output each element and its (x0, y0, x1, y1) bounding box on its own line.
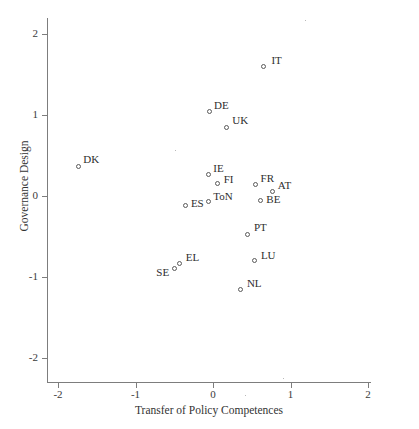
data-point-ton[interactable] (206, 199, 211, 204)
data-point-uk[interactable] (224, 125, 229, 130)
scatter-plot: 210-1-2-2-1012 ITDEUKDKIEFIFRATToNBEESPT… (0, 0, 419, 429)
data-point-label-at: AT (278, 179, 291, 191)
y-tick (42, 358, 47, 359)
y-axis-title: Governance Design (18, 106, 30, 266)
data-point-es[interactable] (183, 203, 188, 208)
data-point-label-be: BE (266, 193, 280, 205)
y-tick (42, 196, 47, 197)
x-tick-label: -1 (121, 388, 151, 400)
data-point-label-fi: FI (224, 173, 234, 185)
data-point-label-uk: UK (232, 114, 248, 126)
x-tick-label: 2 (353, 388, 383, 400)
data-point-label-pt: PT (254, 221, 267, 233)
y-axis-line (47, 18, 48, 383)
x-tick-label: -2 (43, 388, 73, 400)
x-axis-title: Transfer of Policy Competences (47, 404, 371, 416)
y-tick (42, 34, 47, 35)
data-point-label-dk: DK (83, 153, 99, 165)
data-point-fi[interactable] (215, 181, 220, 186)
y-tick-label: -1 (14, 270, 38, 282)
data-point-label-ie: IE (213, 162, 223, 174)
data-point-label-se: SE (156, 266, 169, 278)
noise-speck (283, 378, 284, 379)
y-tick-label: 2 (14, 27, 38, 39)
data-point-label-ton: ToN (213, 190, 232, 202)
data-point-ie[interactable] (206, 172, 211, 177)
x-tick-label: 1 (276, 388, 306, 400)
data-point-label-es: ES (191, 197, 204, 209)
data-point-label-nl: NL (247, 277, 262, 289)
data-point-de[interactable] (207, 109, 212, 114)
x-axis-line (47, 382, 371, 383)
y-tick (42, 277, 47, 278)
data-point-it[interactable] (261, 64, 266, 69)
data-point-nl[interactable] (238, 287, 243, 292)
noise-speck (245, 395, 246, 396)
x-tick-label: 0 (198, 388, 228, 400)
data-point-label-de: DE (214, 99, 229, 111)
data-point-pt[interactable] (245, 232, 250, 237)
data-point-dk[interactable] (76, 164, 81, 169)
noise-speck (305, 20, 306, 21)
noise-speck (175, 150, 176, 151)
data-point-be[interactable] (258, 198, 263, 203)
data-point-label-lu: LU (261, 249, 276, 261)
data-point-label-el: EL (186, 251, 199, 263)
data-point-label-fr: FR (261, 172, 274, 184)
data-point-label-it: IT (271, 54, 281, 66)
data-point-fr[interactable] (253, 182, 258, 187)
data-point-el[interactable] (177, 261, 182, 266)
data-point-se[interactable] (172, 266, 177, 271)
y-tick (42, 115, 47, 116)
data-point-lu[interactable] (252, 258, 257, 263)
y-tick-label: -2 (14, 351, 38, 363)
